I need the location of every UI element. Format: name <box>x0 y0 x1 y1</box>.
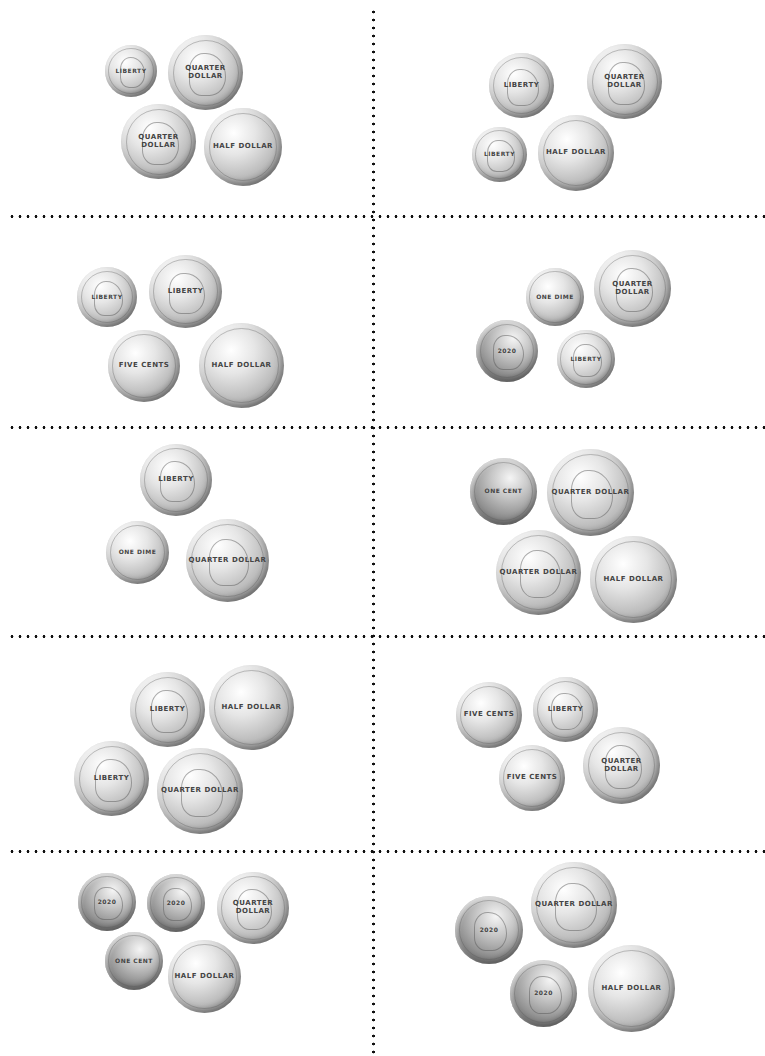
coin-inscription: QUARTER DOLLAR <box>168 65 243 80</box>
coin-inscription: HALF DOLLAR <box>546 149 606 157</box>
coin-inscription: QUARTER DOLLAR <box>500 569 578 577</box>
coin-inscription: LIBERTY <box>115 68 146 75</box>
coin-inscription: LIBERTY <box>484 151 515 158</box>
quarter-heads-coin-icon: QUARTER DOLLAR <box>121 104 196 179</box>
penny-heads-coin-icon: 2020 <box>147 874 205 932</box>
coin-inscription: ONE DIME <box>536 294 574 301</box>
dime-heads-coin-icon: LIBERTY <box>77 267 137 327</box>
coin-inscription: HALF DOLLAR <box>213 143 273 151</box>
penny-tails-coin-icon: ONE CENT <box>470 458 537 525</box>
coin-inscription: 2020 <box>498 348 517 355</box>
coin-inscription: 2020 <box>167 900 186 907</box>
coin-inscription: QUARTER DOLLAR <box>535 901 613 909</box>
coin-inscription: Liberty <box>150 706 186 714</box>
coin-inscription: Liberty <box>168 288 204 296</box>
coin-inscription: QUARTER DOLLAR <box>189 557 267 565</box>
nickel-heads-coin-icon: Liberty <box>489 53 554 118</box>
half-tails-coin-icon: HALF DOLLAR <box>590 536 677 623</box>
coin-inscription: FIVE CENTS <box>119 362 170 370</box>
coin-inscription: Liberty <box>504 82 540 90</box>
coin-inscription: QUARTER DOLLAR <box>583 758 660 773</box>
coin-inscription: 2020 <box>534 990 553 997</box>
coin-inscription: Liberty <box>548 706 584 714</box>
quarter-heads-coin-icon: QUARTER DOLLAR <box>496 530 581 615</box>
horizontal-cut-line-2 <box>8 426 765 429</box>
coin-inscription: 2020 <box>480 927 499 934</box>
half-tails-coin-icon: HALF DOLLAR <box>538 115 614 191</box>
quarter-heads-coin-icon: QUARTER DOLLAR <box>531 862 617 948</box>
quarter-heads-coin-icon: QUARTER DOLLAR <box>186 519 269 602</box>
dime-heads-coin-icon: LIBERTY <box>557 330 615 388</box>
penny-heads-coin-icon: 2020 <box>510 960 577 1027</box>
coin-inscription: ONE CENT <box>485 488 523 495</box>
quarter-heads-coin-icon: QUARTER DOLLAR <box>583 727 660 804</box>
coin-inscription: QUARTER DOLLAR <box>587 74 662 89</box>
half-tails-coin-icon: HALF DOLLAR <box>204 108 282 186</box>
vertical-cut-line <box>372 8 375 1056</box>
nickel-heads-coin-icon: Liberty <box>74 741 149 816</box>
coin-inscription: QUARTER DOLLAR <box>161 787 239 795</box>
penny-heads-coin-icon: 2020 <box>78 873 136 931</box>
half-tails-coin-icon: HALF DOLLAR <box>199 323 284 408</box>
quarter-heads-coin-icon: QUARTER DOLLAR <box>217 872 289 944</box>
dime-heads-coin-icon: LIBERTY <box>472 127 527 182</box>
dime-tails-coin-icon: ONE DIME <box>526 268 584 326</box>
coin-inscription: HALF DOLLAR <box>222 704 282 712</box>
coin-inscription: QUARTER DOLLAR <box>217 900 289 915</box>
half-tails-coin-icon: HALF DOLLAR <box>588 945 675 1032</box>
horizontal-cut-line-4 <box>8 850 765 853</box>
coin-inscription: ONE DIME <box>119 549 157 556</box>
quarter-heads-coin-icon: QUARTER DOLLAR <box>168 35 243 110</box>
dime-tails-coin-icon: ONE DIME <box>106 521 169 584</box>
nickel-heads-coin-icon: Liberty <box>533 677 598 742</box>
horizontal-cut-line-1 <box>8 215 765 218</box>
coin-inscription: QUARTER DOLLAR <box>594 281 671 296</box>
coin-inscription: Liberty <box>94 775 130 783</box>
nickel-tails-coin-icon: FIVE CENTS <box>108 330 180 402</box>
horizontal-cut-line-3 <box>8 635 765 638</box>
penny-heads-coin-icon: 2020 <box>455 896 523 964</box>
quarter-heads-coin-icon: QUARTER DOLLAR <box>594 250 671 327</box>
nickel-tails-coin-icon: FIVE CENTS <box>456 682 522 748</box>
quarter-heads-coin-icon: QUARTER DOLLAR <box>547 449 634 536</box>
coin-inscription: QUARTER DOLLAR <box>552 489 630 497</box>
nickel-tails-coin-icon: FIVE CENTS <box>499 745 565 811</box>
coin-inscription: HALF DOLLAR <box>604 576 664 584</box>
coin-inscription: FIVE CENTS <box>464 711 515 719</box>
coin-inscription: QUARTER DOLLAR <box>121 134 196 149</box>
half-tails-coin-icon: HALF DOLLAR <box>209 665 294 750</box>
coin-inscription: ONE CENT <box>115 958 153 965</box>
coin-inscription: LIBERTY <box>570 356 601 363</box>
nickel-heads-coin-icon: Liberty <box>140 444 212 516</box>
quarter-heads-coin-icon: QUARTER DOLLAR <box>157 748 243 834</box>
coin-inscription: LIBERTY <box>91 294 122 301</box>
quarter-heads-coin-icon: QUARTER DOLLAR <box>587 44 662 119</box>
coin-inscription: Liberty <box>158 476 194 484</box>
coin-inscription: 2020 <box>98 899 117 906</box>
coin-inscription: HALF DOLLAR <box>175 973 235 981</box>
coin-inscription: HALF DOLLAR <box>212 362 272 370</box>
penny-heads-coin-icon: 2020 <box>476 320 538 382</box>
coin-inscription: FIVE CENTS <box>507 774 558 782</box>
dime-heads-coin-icon: LIBERTY <box>105 45 157 97</box>
penny-tails-coin-icon: ONE CENT <box>105 932 163 990</box>
coin-inscription: HALF DOLLAR <box>602 985 662 993</box>
nickel-heads-coin-icon: Liberty <box>130 672 205 747</box>
half-tails-coin-icon: HALF DOLLAR <box>168 940 241 1013</box>
nickel-heads-coin-icon: Liberty <box>149 255 222 328</box>
